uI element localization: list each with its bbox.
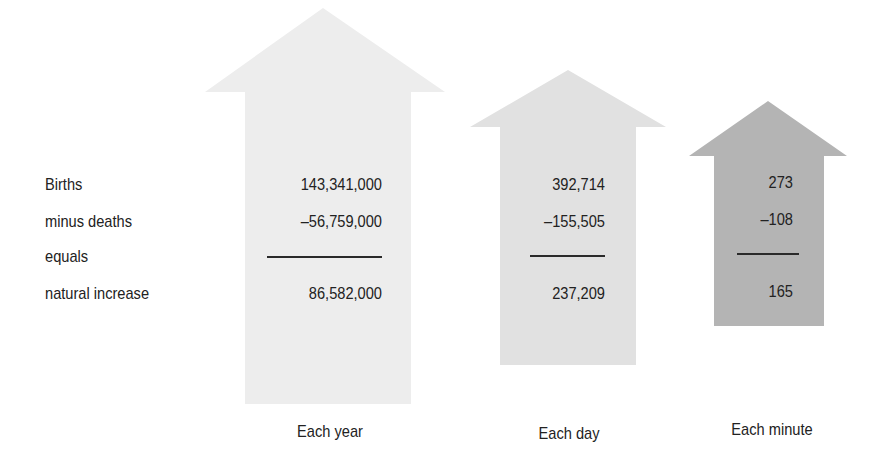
year-deaths-value: –56,759,000 <box>253 212 382 232</box>
day-sum-rule <box>530 255 605 257</box>
row-label-minus-deaths: minus deaths <box>45 212 132 232</box>
row-label-equals: equals <box>45 247 88 267</box>
minute-births-value: 273 <box>713 173 793 193</box>
row-label-natural-increase: natural increase <box>45 284 149 304</box>
caption-each-year: Each year <box>261 422 399 442</box>
row-label-births: Births <box>45 175 82 195</box>
year-sum-rule <box>267 256 382 258</box>
day-natural-increase-value: 237,209 <box>498 284 606 304</box>
arrow-up-icon-year <box>205 8 445 404</box>
minute-natural-increase-value: 165 <box>713 282 793 302</box>
minute-sum-rule <box>737 253 799 255</box>
arrows-graphic <box>0 0 882 462</box>
day-births-value: 392,714 <box>498 175 606 195</box>
minute-deaths-value: –108 <box>713 210 793 230</box>
caption-each-minute: Each minute <box>703 420 841 440</box>
day-deaths-value: –155,505 <box>498 212 606 232</box>
caption-each-day: Each day <box>500 424 638 444</box>
year-births-value: 143,341,000 <box>253 175 382 195</box>
year-natural-increase-value: 86,582,000 <box>253 284 382 304</box>
